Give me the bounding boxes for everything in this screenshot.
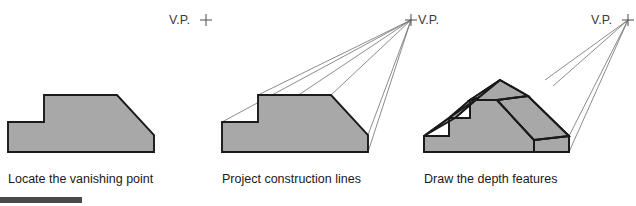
vp-label-panel-2: V.P. (418, 13, 439, 27)
perspective-drawing-figure: V.P. Locate the vanishing point V.P. Pro… (0, 0, 636, 206)
caption-panel-1: Locate the vanishing point (8, 172, 154, 186)
footer-bar (0, 197, 82, 203)
vp-label-panel-3: V.P. (591, 13, 612, 27)
caption-panel-2: Project construction lines (222, 172, 361, 186)
caption-panel-3: Draw the depth features (424, 172, 557, 186)
vp-label-panel-1: V.P. (169, 13, 190, 27)
